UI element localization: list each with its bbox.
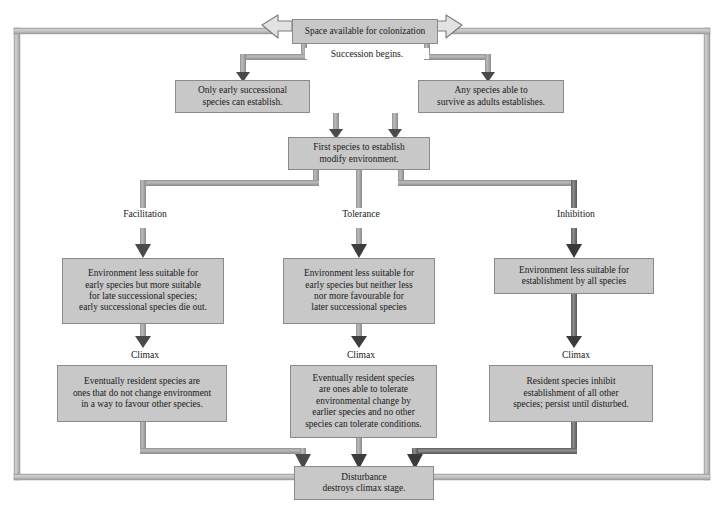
label-succession-begins: Succession begins. xyxy=(305,48,429,59)
box-space-available-text: Space available for colonization xyxy=(297,26,433,37)
box-early-successional[interactable]: Only early successional species can esta… xyxy=(175,80,310,113)
box-tolerance-climax-text: Eventually resident species are ones abl… xyxy=(295,373,432,430)
box-tolerance-effect[interactable]: Environment less suitable for early spec… xyxy=(283,258,435,324)
box-first-species[interactable]: First species to establish modify enviro… xyxy=(288,137,430,170)
label-tolerance: Tolerance xyxy=(320,208,402,219)
box-tolerance-effect-text: Environment less suitable for early spec… xyxy=(288,268,430,314)
label-facilitation: Facilitation xyxy=(104,208,186,219)
box-inhibition-climax-text: Resident species inhibit establishment o… xyxy=(494,376,648,410)
box-any-species-text: Any species able to survive as adults es… xyxy=(423,85,559,108)
label-inhibition: Inhibition xyxy=(535,208,617,219)
label-climax-right: Climax xyxy=(544,349,608,360)
box-any-species[interactable]: Any species able to survive as adults es… xyxy=(418,80,564,113)
box-facilitation-effect-text: Environment less suitable for early spec… xyxy=(67,268,219,314)
box-inhibition-effect-text: Environment less suitable for establishm… xyxy=(499,265,649,288)
box-facilitation-climax-text: Eventually resident species are ones tha… xyxy=(62,376,222,410)
box-facilitation-effect[interactable]: Environment less suitable for early spec… xyxy=(62,258,224,324)
box-tolerance-climax[interactable]: Eventually resident species are ones abl… xyxy=(290,365,437,438)
connector-pathways-to-effects xyxy=(135,228,582,258)
succession-flowchart: Space available for colonization Success… xyxy=(0,0,724,513)
label-climax-middle: Climax xyxy=(329,349,393,360)
connector-branches-to-first-species xyxy=(329,113,402,139)
connector-first-species-to-pathways xyxy=(140,169,577,212)
label-climax-left: Climax xyxy=(113,349,177,360)
box-facilitation-climax[interactable]: Eventually resident species are ones tha… xyxy=(57,365,227,422)
box-inhibition-effect[interactable]: Environment less suitable for establishm… xyxy=(494,258,654,294)
box-early-successional-text: Only early successional species can esta… xyxy=(180,85,305,108)
box-first-species-text: First species to establish modify enviro… xyxy=(293,142,425,165)
box-disturbance[interactable]: Disturbance destroys climax stage. xyxy=(294,466,434,500)
loop-arrow-left-icon xyxy=(262,15,292,38)
box-space-available[interactable]: Space available for colonization xyxy=(292,19,438,44)
box-inhibition-climax[interactable]: Resident species inhibit establishment o… xyxy=(489,365,653,422)
box-disturbance-text: Disturbance destroys climax stage. xyxy=(299,472,429,495)
